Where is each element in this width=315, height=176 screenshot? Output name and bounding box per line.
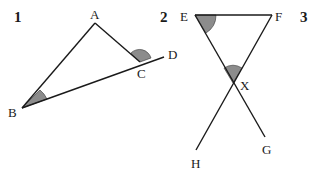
label-f: F: [275, 9, 282, 24]
label-x: X: [240, 78, 250, 93]
label-g: G: [262, 142, 271, 157]
figure-number-2: 2: [160, 9, 168, 25]
side-ac: [95, 23, 140, 62]
figure-2: 2 E F X G H: [160, 9, 282, 171]
label-e: E: [180, 9, 188, 24]
label-d: D: [168, 47, 177, 62]
label-c: C: [137, 66, 146, 81]
figure-1: 1 A B C D: [8, 7, 177, 120]
label-a: A: [90, 7, 100, 22]
figure-number-3: 3: [300, 9, 308, 25]
label-b: B: [8, 105, 17, 120]
angle-e-shade: [195, 15, 216, 33]
label-h: H: [191, 156, 200, 171]
geometry-diagram: 1 A B C D 2 E F X G H 3: [0, 0, 315, 176]
figure-number-1: 1: [14, 9, 22, 25]
line-eg: [195, 15, 265, 137]
angle-acd-shade: [131, 49, 151, 62]
